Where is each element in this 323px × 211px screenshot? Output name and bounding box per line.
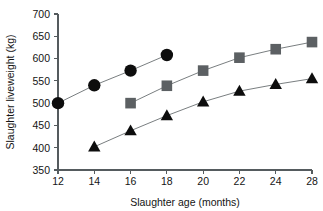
- series-circle: [52, 49, 173, 110]
- data-point-square: [307, 37, 318, 48]
- x-axis-tick-label: 24: [270, 175, 282, 187]
- series-line-circle: [58, 55, 167, 103]
- series-triangle: [88, 72, 318, 151]
- data-point-square: [198, 65, 209, 76]
- data-point-triangle: [88, 140, 100, 151]
- data-point-square: [125, 98, 136, 109]
- data-point-triangle: [161, 109, 173, 120]
- data-point-circle: [161, 49, 173, 61]
- y-axis-tick-label: 700: [32, 8, 50, 20]
- x-axis-tick-label: 28: [306, 175, 318, 187]
- data-point-triangle: [306, 72, 318, 83]
- y-axis-tick-label: 450: [32, 119, 50, 131]
- data-point-square: [270, 44, 281, 55]
- chart-container: 350400450500550600650700 121416182022242…: [0, 0, 323, 211]
- y-axis-tick-label: 650: [32, 30, 50, 42]
- x-axis-title: Slaughter age (months): [130, 196, 240, 208]
- data-point-square: [234, 52, 245, 63]
- y-axis: 350400450500550600650700: [32, 8, 58, 176]
- data-point-triangle: [124, 124, 136, 135]
- y-axis-tick-label: 550: [32, 75, 50, 87]
- y-axis-tick-label: 400: [32, 142, 50, 154]
- data-point-square: [162, 80, 173, 91]
- series-square: [125, 37, 317, 109]
- x-axis-tick-label: 12: [52, 175, 64, 187]
- x-axis: 1214161820222428: [52, 170, 318, 187]
- data-series-group: [52, 37, 318, 152]
- x-axis-tick-label: 20: [197, 175, 209, 187]
- y-axis-tick-label: 500: [32, 97, 50, 109]
- chart-plot-area: 350400450500550600650700 121416182022242…: [0, 0, 323, 211]
- series-line-square: [131, 42, 312, 103]
- data-point-circle: [88, 79, 100, 91]
- y-axis-tick-label: 350: [32, 164, 50, 176]
- y-axis-tick-label: 600: [32, 52, 50, 64]
- x-axis-tick-label: 14: [88, 175, 100, 187]
- data-point-circle: [124, 64, 136, 76]
- x-axis-tick-label: 18: [161, 175, 173, 187]
- x-axis-tick-label: 16: [125, 175, 137, 187]
- x-axis-tick-label: 22: [234, 175, 246, 187]
- y-axis-title: Slaughter liveweight (kg): [4, 35, 16, 150]
- data-point-circle: [52, 97, 64, 109]
